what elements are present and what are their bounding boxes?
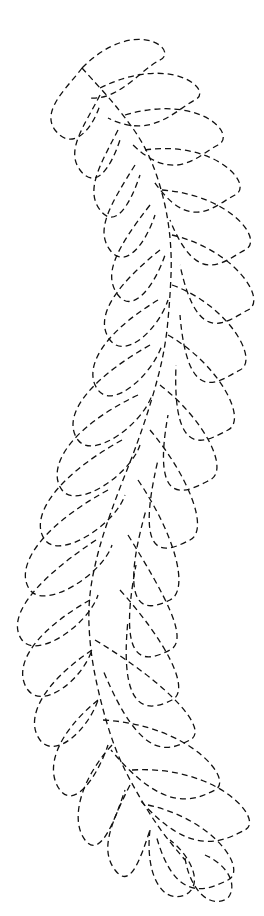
tail-plume xyxy=(149,830,194,897)
tail-plume xyxy=(185,855,232,902)
right-plume xyxy=(148,805,234,889)
right-plume xyxy=(100,73,200,126)
right-plume xyxy=(160,385,217,490)
left-plume xyxy=(93,300,162,396)
left-plume xyxy=(25,490,112,596)
left-plume xyxy=(94,130,140,217)
left-plume xyxy=(75,95,120,178)
left-plume xyxy=(78,745,125,845)
feather-spine xyxy=(82,68,185,860)
left-plume xyxy=(53,700,108,796)
left-plumes xyxy=(17,68,168,876)
left-plume xyxy=(108,785,150,876)
feather-pattern xyxy=(0,0,264,916)
right-plumes xyxy=(82,39,254,901)
left-plume xyxy=(17,540,98,646)
left-plume xyxy=(40,440,125,546)
right-plume xyxy=(149,430,197,548)
right-plume xyxy=(120,590,179,706)
left-plume xyxy=(104,165,155,257)
right-plume xyxy=(134,480,179,606)
left-plume xyxy=(104,250,168,346)
right-plume xyxy=(82,39,165,98)
spine-line xyxy=(82,68,185,860)
left-plume xyxy=(51,68,100,139)
right-plume xyxy=(162,190,251,265)
right-plume xyxy=(145,149,240,213)
left-plume xyxy=(34,650,98,746)
left-plume xyxy=(23,600,92,696)
right-plume xyxy=(168,335,234,440)
